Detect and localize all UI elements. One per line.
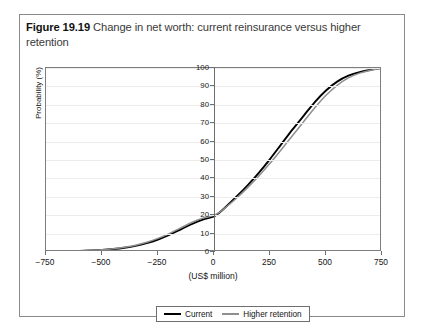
gridline — [46, 234, 380, 235]
x-axis-tick-label: −250 — [132, 257, 182, 267]
gridline — [46, 160, 380, 161]
y-axis-tick-label: 90 — [183, 81, 209, 90]
x-axis-tick-mark — [325, 251, 326, 255]
chart-legend: CurrentHigher retention — [156, 306, 310, 322]
y-axis-tick-label: 70 — [183, 118, 209, 127]
y-axis-tick-label: 60 — [183, 137, 209, 146]
x-axis-tick-mark — [101, 251, 102, 255]
y-axis-tick-mark — [210, 104, 215, 105]
y-axis-title: Probability (%) — [34, 67, 43, 119]
x-axis-tick-mark — [269, 251, 270, 255]
figure-card: Figure 19.19 Change in net worth: curren… — [19, 14, 405, 317]
legend-line-icon — [164, 313, 181, 315]
y-axis-tick-mark — [210, 196, 215, 197]
y-axis-tick-mark — [210, 159, 215, 160]
y-axis-tick-label: 30 — [183, 192, 209, 201]
y-axis-tick-mark — [210, 214, 215, 215]
y-axis-tick-label: 80 — [183, 100, 209, 109]
y-axis-tick-mark — [210, 67, 215, 68]
y-axis-tick-label: 0 — [183, 247, 209, 256]
gridline — [46, 197, 380, 198]
x-axis-tick-label: 500 — [300, 257, 350, 267]
x-axis-tick-label: 0 — [188, 257, 238, 267]
legend-item[interactable]: Current — [164, 310, 212, 319]
gridline — [46, 68, 380, 69]
y-axis-tick-label: 40 — [183, 173, 209, 182]
y-axis-tick-mark — [210, 177, 215, 178]
figure-caption: Figure 19.19 Change in net worth: curren… — [26, 20, 394, 50]
legend-item[interactable]: Higher retention — [222, 310, 301, 319]
y-axis-tick-mark — [210, 85, 215, 86]
y-axis-tick-label: 100 — [183, 63, 209, 72]
x-axis-tick-mark — [381, 251, 382, 255]
x-axis-tick-mark — [157, 251, 158, 255]
x-axis-tick-mark — [213, 251, 214, 255]
y-axis-tick-mark — [210, 233, 215, 234]
x-axis-tick-label: −750 — [20, 257, 70, 267]
y-axis-tick-label: 20 — [183, 210, 209, 219]
y-axis-tick-label: 50 — [183, 155, 209, 164]
gridline — [46, 142, 380, 143]
legend-label: Higher retention — [243, 310, 301, 319]
x-axis-tick-label: 750 — [356, 257, 406, 267]
x-axis-title: (US$ million) — [45, 271, 381, 281]
y-axis-tick-mark — [210, 141, 215, 142]
x-axis-tick-label: 250 — [244, 257, 294, 267]
chart-plot: Probability (%) 0102030405060708090100 −… — [45, 67, 382, 251]
figure-number: Figure 19.19 — [26, 21, 90, 33]
gridline — [46, 105, 380, 106]
legend-label: Current — [185, 310, 212, 319]
y-axis-tick-mark — [210, 122, 215, 123]
legend-line-icon — [222, 313, 239, 315]
x-axis-tick-mark — [45, 251, 46, 255]
x-axis-tick-label: −500 — [76, 257, 126, 267]
y-axis-tick-label: 10 — [183, 229, 209, 238]
